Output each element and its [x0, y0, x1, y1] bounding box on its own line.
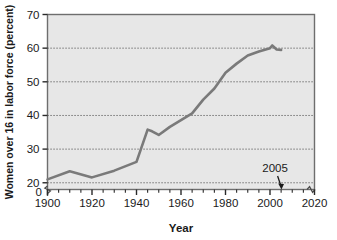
y-axis-tick-label: 60	[27, 42, 40, 54]
x-axis-tick-labels: 1900192019401960198020002020	[35, 197, 328, 209]
y-axis-tick-label: 50	[27, 76, 40, 88]
y-axis-tick-label: 40	[27, 109, 40, 121]
x-axis-tick-label: 1900	[35, 197, 61, 209]
y-axis-zero-label: 0	[36, 186, 42, 198]
x-axis-tick-label: 2000	[257, 197, 283, 209]
x-axis-tick-label: 1960	[168, 197, 194, 209]
y-axis-tick-labels: 203040506070	[27, 9, 40, 189]
year-2005-label: 2005	[262, 162, 288, 174]
x-axis-tick-label: 2020	[302, 197, 328, 209]
x-axis-tick-label: 1940	[124, 197, 150, 209]
chart-canvas: 1900192019401960198020002020 20304050607…	[0, 0, 337, 240]
x-axis-ticks	[48, 190, 315, 196]
y-axis-tick-label: 30	[27, 143, 40, 155]
y-axis-tick-label: 70	[27, 9, 40, 21]
y-axis-ticks	[43, 15, 48, 183]
y-axis-title: Women over 16 in labor force (percent)	[3, 5, 15, 200]
x-axis-tick-label: 1980	[213, 197, 239, 209]
x-axis-tick-label: 1920	[79, 197, 105, 209]
line-chart: 1900192019401960198020002020 20304050607…	[0, 0, 337, 240]
x-axis-title: Year	[169, 222, 194, 234]
